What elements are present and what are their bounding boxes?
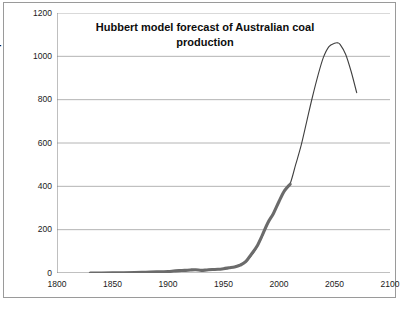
- y-axis-tick-label: 800: [1, 95, 52, 104]
- y-axis-tick-label: 200: [1, 225, 52, 234]
- gridlines: [57, 13, 390, 273]
- y-axis-tick-label: 0: [1, 269, 52, 278]
- x-axis-tick-label: 1950: [204, 280, 244, 289]
- x-axis-tick-label: 1900: [148, 280, 188, 289]
- model-forecast-curve: [90, 43, 356, 273]
- x-axis-tick-label: 1850: [93, 280, 133, 289]
- x-axis-tick-label: 2000: [259, 280, 299, 289]
- x-axis-tick-label: 2050: [315, 280, 355, 289]
- chart-figure: Hubbert model forecast of Australian coa…: [0, 0, 409, 311]
- x-axis-tick-label: 1800: [37, 280, 77, 289]
- y-axis-tick-label: 1200: [1, 9, 52, 18]
- y-axis-tick-label: 600: [1, 139, 52, 148]
- plot-area: [57, 13, 390, 273]
- y-axis-tick-label: 400: [1, 182, 52, 191]
- historical-data-curve: [90, 184, 290, 273]
- x-axis-tick-label: 2100: [370, 280, 409, 289]
- plot-svg: [57, 13, 390, 273]
- y-axis-title: Coal production (Mt/year): [0, 0, 1, 96]
- y-axis-tick-label: 1000: [1, 52, 52, 61]
